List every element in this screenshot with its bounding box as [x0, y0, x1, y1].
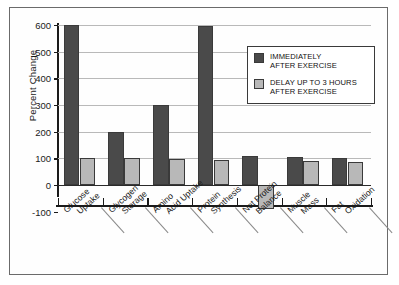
y-axis-tick-label: -100 — [32, 206, 51, 217]
y-axis-tick — [54, 132, 58, 133]
bar — [64, 25, 80, 185]
chart-figure-frame: Percent Change 6005004003002001000-100 G… — [9, 7, 388, 275]
chart-legend: IMMEDIATELY AFTER EXERCISE DELAY UP TO 3… — [247, 46, 375, 104]
legend-label-immediately-line2: AFTER EXERCISE — [270, 61, 337, 70]
y-axis-tick-label: 400 — [35, 73, 51, 84]
legend-label-delay-line1: DELAY UP TO 3 HOURS — [270, 78, 357, 87]
bar — [242, 156, 258, 185]
category-axis-tick — [147, 198, 148, 206]
legend-label-delay: DELAY UP TO 3 HOURS AFTER EXERCISE — [270, 78, 357, 97]
y-axis-tick-label: 200 — [35, 126, 51, 137]
category-axis-tick — [282, 198, 283, 206]
category-axis-label: GlucoseUptake — [62, 184, 102, 223]
category-axis-tick — [371, 198, 372, 206]
y-axis-tick-label: 300 — [35, 100, 51, 111]
bar — [303, 161, 319, 185]
bar — [124, 158, 140, 185]
gridline — [58, 105, 371, 106]
y-axis-tick — [54, 212, 58, 213]
y-axis-tick — [54, 52, 58, 53]
bar — [80, 158, 96, 185]
zero-baseline — [58, 185, 371, 186]
y-axis-tick — [54, 158, 58, 159]
category-label-rule — [369, 207, 392, 233]
bar — [198, 26, 214, 185]
bar — [287, 157, 303, 185]
gridline — [58, 25, 371, 26]
category-axis-label: GlycogenStorage — [107, 182, 149, 222]
y-axis-tick-label: 100 — [35, 153, 51, 164]
legend-label-delay-line2: AFTER EXERCISE — [270, 87, 357, 96]
y-axis-tick-label: 500 — [35, 46, 51, 57]
y-axis-tick — [54, 25, 58, 26]
bar — [332, 158, 348, 185]
legend-swatch-light-icon — [254, 79, 264, 89]
legend-item-delay: DELAY UP TO 3 HOURS AFTER EXERCISE — [254, 78, 368, 97]
category-axis-tick — [326, 198, 327, 206]
category-axis-tick — [192, 198, 193, 206]
legend-label-immediately: IMMEDIATELY AFTER EXERCISE — [270, 52, 337, 71]
legend-swatch-dark-icon — [254, 53, 264, 63]
category-axis-tick — [103, 198, 104, 206]
category-axis-tick — [58, 198, 59, 206]
gridline — [58, 132, 371, 133]
legend-label-immediately-line1: IMMEDIATELY — [270, 52, 337, 61]
bar — [108, 132, 124, 185]
bar — [153, 105, 169, 185]
category-axis-label: MuscleMass — [286, 188, 321, 222]
y-axis-tick-label: 0 — [46, 180, 51, 191]
y-axis-tick-label: 600 — [35, 20, 51, 31]
y-axis-tick — [54, 105, 58, 106]
y-axis-tick — [54, 78, 58, 79]
category-axis-tick — [237, 198, 238, 206]
legend-item-immediately: IMMEDIATELY AFTER EXERCISE — [254, 52, 368, 71]
